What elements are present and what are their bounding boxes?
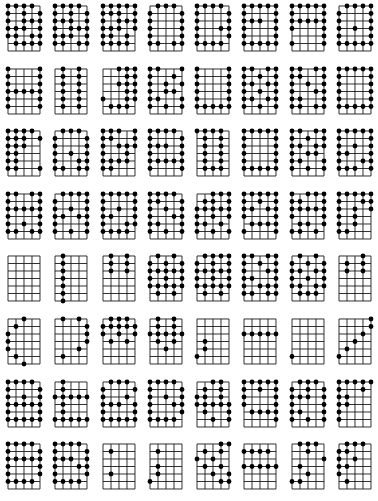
fretboard-diagram[interactable] — [284, 0, 331, 63]
note-dot[interactable] — [227, 11, 232, 16]
fretboard-diagram[interactable] — [47, 313, 94, 376]
note-dot[interactable] — [14, 206, 19, 211]
note-dot[interactable] — [258, 221, 263, 226]
note-dot[interactable] — [266, 221, 271, 226]
note-dot[interactable] — [344, 379, 349, 384]
note-dot[interactable] — [179, 19, 184, 24]
note-dot[interactable] — [289, 129, 294, 134]
note-dot[interactable] — [242, 26, 247, 31]
note-dot[interactable] — [38, 96, 43, 101]
note-dot[interactable] — [179, 221, 184, 226]
note-dot[interactable] — [124, 19, 129, 24]
fretboard-diagram[interactable] — [142, 0, 189, 63]
fretboard-diagram[interactable] — [0, 376, 47, 439]
note-dot[interactable] — [250, 96, 255, 101]
note-dot[interactable] — [132, 144, 137, 149]
note-dot[interactable] — [147, 81, 152, 86]
note-dot[interactable] — [116, 379, 121, 384]
note-dot[interactable] — [108, 449, 113, 454]
note-dot[interactable] — [242, 214, 247, 219]
note-dot[interactable] — [321, 199, 326, 204]
note-dot[interactable] — [69, 4, 74, 9]
fretboard-diagram[interactable] — [95, 125, 142, 188]
note-dot[interactable] — [6, 402, 11, 407]
note-dot[interactable] — [132, 19, 137, 24]
note-dot[interactable] — [6, 159, 11, 164]
note-dot[interactable] — [352, 41, 357, 46]
note-dot[interactable] — [6, 144, 11, 149]
note-dot[interactable] — [179, 394, 184, 399]
note-dot[interactable] — [336, 96, 341, 101]
note-dot[interactable] — [155, 379, 160, 384]
note-dot[interactable] — [242, 81, 247, 86]
note-dot[interactable] — [321, 96, 326, 101]
note-dot[interactable] — [61, 417, 66, 422]
fretboard-diagram[interactable] — [47, 250, 94, 313]
note-dot[interactable] — [61, 191, 66, 196]
note-dot[interactable] — [38, 214, 43, 219]
note-dot[interactable] — [289, 81, 294, 86]
note-dot[interactable] — [297, 269, 302, 274]
note-dot[interactable] — [179, 214, 184, 219]
note-dot[interactable] — [203, 221, 208, 226]
note-dot[interactable] — [77, 81, 82, 86]
note-dot[interactable] — [155, 199, 160, 204]
note-dot[interactable] — [179, 144, 184, 149]
note-dot[interactable] — [211, 199, 216, 204]
note-dot[interactable] — [274, 166, 279, 171]
note-dot[interactable] — [313, 104, 318, 109]
note-dot[interactable] — [227, 214, 232, 219]
note-dot[interactable] — [336, 387, 341, 392]
note-dot[interactable] — [321, 269, 326, 274]
note-dot[interactable] — [352, 166, 357, 171]
note-dot[interactable] — [132, 324, 137, 329]
note-dot[interactable] — [69, 394, 74, 399]
note-dot[interactable] — [85, 144, 90, 149]
note-dot[interactable] — [258, 199, 263, 204]
note-dot[interactable] — [266, 269, 271, 274]
fretboard-diagram[interactable] — [47, 376, 94, 439]
note-dot[interactable] — [321, 261, 326, 266]
note-dot[interactable] — [203, 387, 208, 392]
note-dot[interactable] — [195, 34, 200, 39]
note-dot[interactable] — [171, 269, 176, 274]
note-dot[interactable] — [289, 89, 294, 94]
note-dot[interactable] — [38, 457, 43, 462]
note-dot[interactable] — [242, 464, 247, 469]
note-dot[interactable] — [108, 379, 113, 384]
note-dot[interactable] — [85, 449, 90, 454]
fretboard-diagram[interactable] — [142, 188, 189, 251]
note-dot[interactable] — [289, 409, 294, 414]
note-dot[interactable] — [297, 442, 302, 447]
note-dot[interactable] — [368, 96, 373, 101]
note-dot[interactable] — [360, 442, 365, 447]
note-dot[interactable] — [250, 276, 255, 281]
note-dot[interactable] — [274, 417, 279, 422]
note-dot[interactable] — [147, 269, 152, 274]
note-dot[interactable] — [274, 276, 279, 281]
note-dot[interactable] — [289, 159, 294, 164]
note-dot[interactable] — [211, 254, 216, 259]
note-dot[interactable] — [258, 387, 263, 392]
note-dot[interactable] — [171, 41, 176, 46]
note-dot[interactable] — [53, 4, 58, 9]
note-dot[interactable] — [313, 206, 318, 211]
note-dot[interactable] — [38, 191, 43, 196]
note-dot[interactable] — [53, 199, 58, 204]
note-dot[interactable] — [360, 269, 365, 274]
note-dot[interactable] — [38, 11, 43, 16]
note-dot[interactable] — [195, 96, 200, 101]
note-dot[interactable] — [227, 229, 232, 234]
note-dot[interactable] — [77, 41, 82, 46]
note-dot[interactable] — [321, 11, 326, 16]
note-dot[interactable] — [85, 26, 90, 31]
note-dot[interactable] — [368, 74, 373, 79]
note-dot[interactable] — [61, 19, 66, 24]
note-dot[interactable] — [6, 332, 11, 337]
note-dot[interactable] — [124, 254, 129, 259]
note-dot[interactable] — [289, 261, 294, 266]
fretboard-diagram[interactable] — [331, 376, 378, 439]
note-dot[interactable] — [289, 354, 294, 359]
note-dot[interactable] — [360, 332, 365, 337]
note-dot[interactable] — [266, 96, 271, 101]
